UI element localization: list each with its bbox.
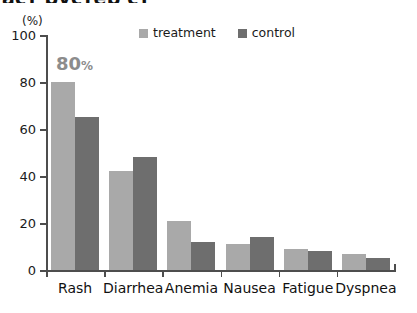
- y-axis-tick-label: 0: [0, 263, 36, 278]
- bar: [191, 242, 215, 270]
- bar-chart: аст рустер ст (%) treatment control 0204…: [0, 0, 417, 313]
- annotation-value: 80: [56, 53, 81, 74]
- bar: [75, 117, 99, 270]
- bar-group: [284, 249, 332, 270]
- annotation-suffix: %: [81, 59, 93, 73]
- x-axis-tick: [279, 270, 281, 277]
- plot-area: [46, 35, 395, 270]
- x-axis-category-label: Fatigue: [282, 280, 333, 296]
- bar-group: [167, 221, 215, 270]
- x-axis-tick: [46, 270, 48, 277]
- bar: [109, 171, 133, 270]
- bar: [284, 249, 308, 270]
- bar: [342, 254, 366, 270]
- value-annotation-rash-treatment: 80%: [56, 55, 93, 73]
- bar: [167, 221, 191, 270]
- y-axis-tick-label: 80: [0, 75, 36, 90]
- bar-group: [109, 157, 157, 270]
- chart-title: аст рустер ст: [2, 0, 150, 3]
- y-axis-tick-label: 20: [0, 216, 36, 231]
- y-axis-tick-label: 60: [0, 122, 36, 137]
- y-axis-unit-label: (%): [22, 14, 43, 28]
- x-axis-category-label: Rash: [58, 280, 92, 296]
- y-axis-tick-label: 40: [0, 169, 36, 184]
- x-axis-category-label: Diarrhea: [103, 280, 163, 296]
- x-axis-tick: [221, 270, 223, 277]
- bar-group: [226, 237, 274, 270]
- bar: [308, 251, 332, 270]
- x-axis-category-label: Dyspnea: [335, 280, 396, 296]
- bar: [51, 82, 75, 270]
- bar: [250, 237, 274, 270]
- x-axis-category-label: Nausea: [223, 280, 275, 296]
- bar-group: [342, 254, 390, 270]
- bar: [366, 258, 390, 270]
- x-axis-tick: [162, 270, 164, 277]
- bar: [226, 244, 250, 270]
- bar: [133, 157, 157, 270]
- x-axis-tick: [104, 270, 106, 277]
- y-axis-tick-label: 100: [0, 28, 36, 43]
- bar-group: [51, 82, 99, 270]
- x-axis-tick: [337, 270, 339, 277]
- x-axis-category-label: Anemia: [165, 280, 218, 296]
